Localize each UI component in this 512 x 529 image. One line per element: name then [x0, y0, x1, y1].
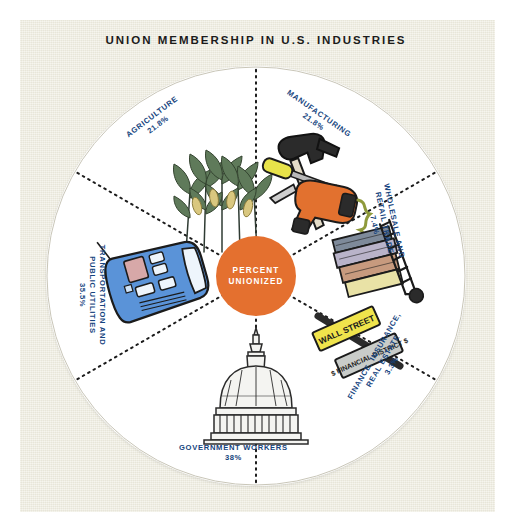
blue-bus-icon — [94, 226, 214, 336]
government-pct: 38% — [179, 453, 288, 463]
infographic-canvas: UNION MEMBERSHIP IN U.S. INDUSTRIES — [0, 0, 512, 529]
page-title: UNION MEMBERSHIP IN U.S. INDUSTRIES — [0, 34, 512, 46]
transportation-pct: 35.5% — [77, 245, 87, 346]
hub-line-2: UNIONIZED — [229, 277, 284, 286]
government-name: GOVERNMENT WORKERS — [179, 443, 288, 452]
segment-label-government: GOVERNMENT WORKERS 38% — [179, 443, 288, 463]
transportation-name-line1: TRANSPORTATION AND — [98, 245, 107, 346]
center-hub: PERCENT UNIONIZED — [216, 236, 296, 316]
capitol-dome-icon — [198, 326, 314, 444]
segment-label-transportation: TRANSPORTATION AND PUBLIC UTILITIES 35.5… — [77, 245, 107, 346]
hub-line-1: PERCENT — [233, 266, 280, 275]
pie-chart: WALL STREET $ FINANCIAL DISTRICT $ — [46, 66, 466, 486]
transportation-name-line2: PUBLIC UTILITIES — [88, 256, 97, 333]
